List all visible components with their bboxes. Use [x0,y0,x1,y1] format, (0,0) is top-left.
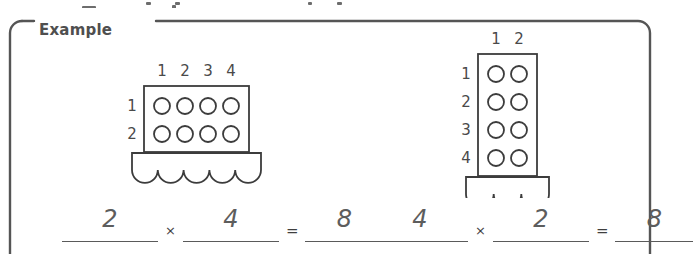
equation-rows-times-columns: 2 × 4 = 8 [62,196,383,242]
array-diagram-2-by-4: 1 2 3 4 1 2 [118,58,278,198]
equation-columns-times-rows: 4 × 2 = 8 [372,196,693,242]
factor1-value: 2 [102,206,117,232]
product-blank[interactable]: 8 [615,207,693,242]
product-value: 8 [337,206,352,232]
column-label: 4 [226,62,236,80]
row-label: 2 [127,125,137,143]
row-label: 1 [461,65,471,83]
product-value: 8 [647,206,662,232]
factor1-blank[interactable]: 2 [62,207,158,242]
column-label: 1 [157,62,167,80]
row-label: 2 [461,93,471,111]
dot-grid [154,98,239,142]
factor1-blank[interactable]: 4 [372,207,468,242]
factor1-value: 4 [412,206,427,232]
cropped-text-artifacts [0,0,663,8]
factor2-blank[interactable]: 4 [183,207,279,242]
artifact-mark [337,2,342,5]
factor2-value: 4 [223,206,238,232]
column-label: 2 [514,30,524,48]
factor2-value: 2 [533,206,548,232]
tray-base [466,177,549,198]
artifact-mark [172,5,176,8]
column-label: 3 [203,62,213,80]
column-label: 2 [180,62,190,80]
artifact-mark [82,6,96,8]
multiply-symbol: × [468,224,493,242]
example-label: Example [34,22,117,38]
dot-container [478,54,537,176]
multiply-symbol: × [158,224,183,242]
equals-symbol: = [279,225,306,242]
dot-grid [488,66,527,166]
row-label: 3 [461,121,471,139]
equals-symbol: = [589,225,616,242]
column-label: 1 [491,30,501,48]
array-diagram-4-by-2: 1 2 1 2 3 4 [452,26,572,198]
row-label: 1 [127,97,137,115]
artifact-mark [308,2,312,5]
row-label: 4 [461,149,471,167]
artifact-mark [146,2,151,5]
tray-base [132,153,261,183]
factor2-blank[interactable]: 2 [493,207,589,242]
